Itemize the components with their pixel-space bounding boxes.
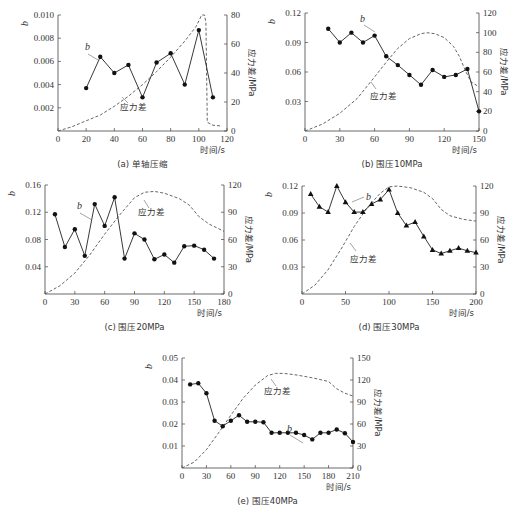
x-tick-label: 60 [138,134,148,144]
circle-marker [318,431,322,435]
x-tick-label: 150 [187,297,201,307]
circle-marker [326,27,330,31]
y2-axis-label: 应力差/MPa [244,216,254,263]
y-tick-label: 0.05 [162,353,178,363]
y2-tick-label: 0 [480,289,485,299]
b-leader-line [364,25,375,32]
y-tick-label: 0.004 [34,80,55,90]
y-axis-label: b [263,192,274,197]
y2-tick-label: 90 [228,207,238,217]
chart-d: 0501001502000.030.060.090.120306090120b应… [263,181,506,332]
x-tick-label: 50 [341,297,351,307]
stress-annotation: 应力差 [370,91,397,101]
y2-tick-label: 80 [231,10,241,20]
y2-tick-label: 60 [231,39,241,49]
y2-tick-label: 120 [483,8,497,18]
circle-marker [253,420,257,424]
circle-marker [188,382,192,386]
circle-marker [430,68,434,72]
circle-marker [442,75,446,79]
y-tick-label: 0.03 [162,397,178,407]
x-tick-label: 90 [251,471,261,481]
x-tick-label: 0 [56,134,61,144]
circle-marker [172,260,176,264]
circle-marker [152,257,156,261]
y2-tick-label: 60 [228,235,238,245]
x-axis-label: 时间/s [449,308,475,318]
x-tick-label: 60 [226,471,236,481]
circle-marker [396,63,400,67]
circle-marker [212,256,216,260]
stress-leader-line [350,243,356,251]
triangle-marker [456,245,462,250]
circle-marker [53,212,57,216]
y-tick-label: 0.06 [282,235,298,245]
y2-tick-label: 120 [357,375,371,385]
stress-difference-line [302,186,476,294]
circle-marker [140,95,144,99]
circle-marker [211,95,215,99]
circle-marker [454,73,458,77]
triangle-marker [412,219,418,224]
y2-tick-label: 100 [483,28,497,38]
y2-tick-label: 40 [231,68,241,78]
circle-marker [372,33,376,37]
circle-marker [182,244,186,248]
circle-marker [202,248,206,252]
x-tick-label: 60 [370,134,380,144]
x-tick-label: 30 [202,471,212,481]
y-tick-label: 0.12 [282,181,298,191]
y-tick-label: 0.04 [162,375,178,385]
y-tick-label: 0.16 [25,180,41,190]
y-tick-label: 0.09 [282,208,298,218]
b-annotation: b [85,41,90,52]
circle-marker [294,431,298,435]
y2-tick-label: 80 [483,47,493,57]
circle-marker [351,440,355,444]
circle-marker [343,431,347,435]
circle-marker [126,63,130,67]
x-tick-label: 120 [273,471,287,481]
circle-marker [83,254,87,258]
y-axis-label: b [266,19,277,24]
y2-tick-label: 20 [231,97,241,107]
circle-marker [221,424,225,428]
y2-tick-label: 30 [357,441,367,451]
x-tick-label: 60 [100,297,110,307]
y2-tick-label: 0 [231,126,236,136]
x-tick-label: 100 [192,134,206,144]
circle-marker [197,28,201,32]
subplot-caption: (b) 围压10MPa [362,159,423,169]
y2-tick-label: 0 [483,126,488,136]
circle-marker [168,51,172,55]
circle-marker [212,419,216,423]
circle-marker [261,420,265,424]
stress-leader-line [371,82,376,89]
circle-marker [196,381,200,385]
triangle-marker [308,191,314,196]
circle-marker [192,243,196,247]
circle-marker [183,82,187,86]
b-annotation: b [366,191,371,202]
y-axis-label: b [6,191,17,196]
circle-marker [310,437,314,441]
y-tick-label: 0.06 [285,67,301,77]
circle-marker [93,202,97,206]
b-annotation: b [287,423,292,434]
x-tick-label: 120 [437,134,451,144]
y2-tick-label: 60 [483,67,493,77]
figure-canvas: 0204060801001200.0020.0040.0060.0080.010… [0,0,518,522]
y-tick-label: 0.12 [285,8,301,18]
stress-leader-line [271,379,276,386]
y-axis-label: b [143,364,154,369]
chart-a: 0204060801001200.0020.0040.0060.0080.010… [19,10,257,169]
y-tick-label: 0.03 [285,97,301,107]
triangle-marker [325,209,331,214]
circle-marker [73,227,77,231]
b-leader-line [352,197,364,202]
y-tick-label: 0.008 [34,33,55,43]
circle-marker [465,67,469,71]
chart-c: 03060901201501800.040.080.120.1603060901… [6,180,254,332]
y-axis-label: b [19,21,30,26]
x-tick-label: 150 [297,471,311,481]
